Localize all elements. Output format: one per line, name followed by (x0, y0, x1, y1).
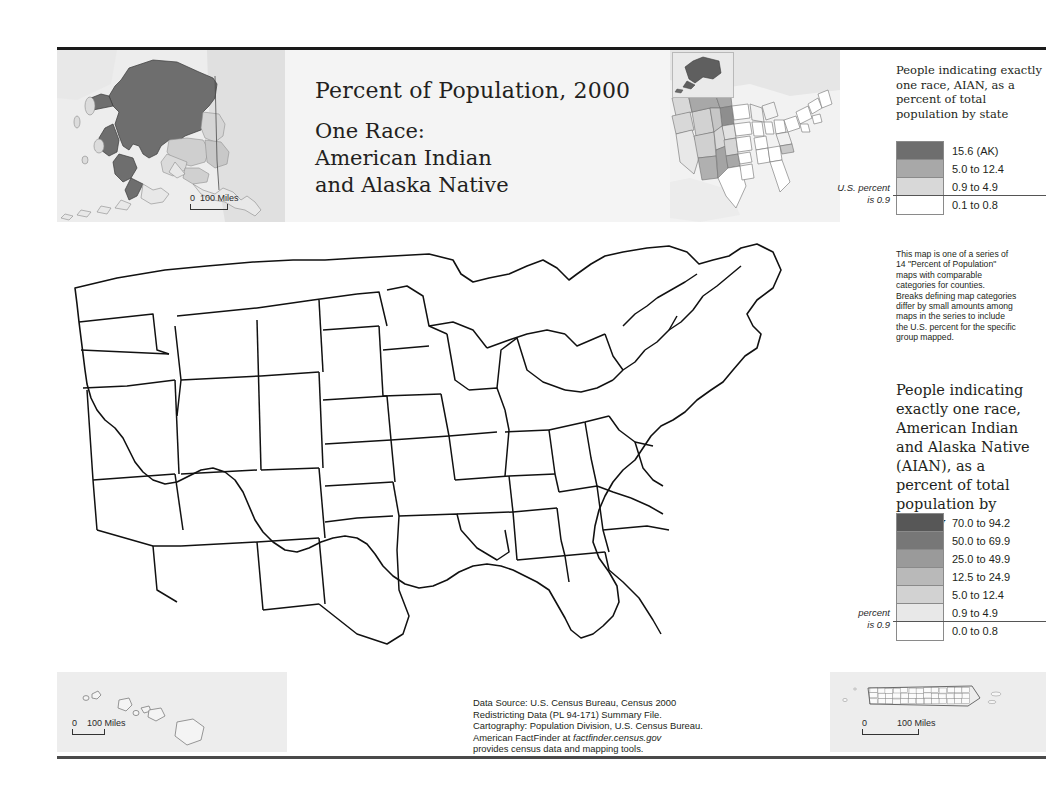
state-legend-label-3: 0.1 to 0.8 (952, 199, 998, 211)
pr-municipio-mesh (870, 688, 970, 705)
state-legend-us-percent-note: U.S. percent is 0.9 (800, 182, 890, 206)
factfinder-url: factfinder.census.gov (573, 732, 661, 743)
pr-municipio (954, 688, 962, 693)
pr-municipio (924, 693, 932, 698)
county-legend-label-4: 5.0 to 12.4 (952, 589, 1004, 601)
county-legend-swatch-3: 12.5 to 24.9 (897, 568, 943, 586)
hawaii-inset-map: 0 100 Miles (57, 672, 287, 752)
county-legend-label-6: 0.0 to 0.8 (952, 625, 998, 637)
alaska-scale-distance: 100 Miles (200, 193, 239, 203)
pr-municipio (885, 688, 893, 693)
pr-municipio (909, 693, 917, 698)
pr-municipio (909, 688, 917, 693)
state-legend-swatch-0: 15.6 (AK) (897, 142, 943, 160)
source-note-line-2: Redistricting Data (PL 94-171) Summary F… (473, 709, 743, 721)
county-legend-heading-line-4: and Alaska Native (896, 438, 1046, 457)
state-legend-swatch-3: 0.1 to 0.8 (897, 196, 943, 214)
pr-municipio (885, 699, 893, 704)
pr-municipio (885, 694, 893, 699)
source-note-line-3: Cartography: Population Division, U.S. C… (473, 720, 743, 732)
main-county-choropleth-map (57, 230, 857, 700)
source-note-line-1: Data Source: U.S. Census Bureau, Census … (473, 697, 743, 709)
hawaii-scalebar: 0 100 Miles (72, 718, 126, 735)
subtitle-line-2: American Indian (315, 145, 675, 172)
pr-municipio (931, 688, 939, 693)
alaska-thumbnail-svg (673, 53, 731, 95)
county-legend-label-1: 50.0 to 69.9 (952, 535, 1010, 547)
county-legend-heading-line-6: percent of total (896, 476, 1046, 495)
state-legend-heading: People indicating exactly one race, AIAN… (896, 63, 1042, 121)
pr-municipio (924, 688, 932, 693)
source-note-line-5: provides census data and mapping tools. (473, 743, 743, 755)
pr-municipio (947, 699, 955, 704)
pr-municipio (878, 699, 886, 704)
state-legend-swatch-1: 5.0 to 12.4 (897, 160, 943, 178)
county-legend-label-3: 12.5 to 24.9 (952, 571, 1010, 583)
puerto-rico-inset-map: 0 100 Miles (830, 672, 1046, 752)
series-note-line-1: This map is one of a series of (896, 249, 1046, 259)
series-note-line-3: maps with comparable (896, 270, 1046, 280)
pr-municipio (924, 699, 932, 704)
series-note-line-7: maps in the series to include (896, 311, 1046, 321)
series-note-line-2: 14 "Percent of Population" (896, 259, 1046, 269)
county-legend-heading-line-5: (AIAN), as a (896, 457, 1046, 476)
county-legend-swatch-6: 0.0 to 0.8 (897, 622, 943, 640)
state-legend-label-2: 0.9 to 4.9 (952, 181, 998, 193)
county-legend-heading-line-2: exactly one race, (896, 400, 1046, 419)
hawaii-inset-svg (57, 672, 287, 752)
series-note-line-6: differ by small amounts among (896, 301, 1046, 311)
subtitle-line-1: One Race: (315, 118, 675, 145)
pr-municipio (954, 699, 962, 704)
source-note-line-4-prefix: American FactFinder at (473, 732, 573, 743)
pr-municipio (878, 688, 886, 693)
pr-municipio (901, 699, 909, 704)
state-us-percent-line-1: U.S. percent (800, 182, 890, 194)
alaska-inset-svg (57, 50, 285, 222)
puerto-rico-scalebar-bar (862, 729, 919, 735)
pr-municipio (962, 698, 970, 703)
page-title: Percent of Population, 2000 (315, 78, 675, 103)
pr-municipio (916, 699, 924, 704)
pr-scale-distance: 100 Miles (897, 718, 936, 728)
alaska-scalebar: 0 100 Miles (190, 193, 239, 210)
county-legend-heading: People indicating exactly one race, Amer… (896, 381, 1046, 533)
pr-municipio (939, 694, 947, 699)
pr-municipio (878, 693, 886, 698)
pr-municipio (870, 699, 878, 704)
county-legend-label-0: 70.0 to 94.2 (952, 517, 1010, 529)
pr-municipio (870, 693, 878, 698)
pr-municipio (916, 688, 924, 693)
alaska-inset-map: 0 100 Miles (57, 50, 285, 222)
source-note-line-4: American FactFinder at factfinder.census… (473, 732, 743, 744)
pr-municipio (916, 693, 924, 698)
pr-municipio (947, 694, 955, 699)
pr-municipio (955, 694, 963, 699)
puerto-rico-inset-svg (830, 672, 1046, 752)
county-legend-label-5: 0.9 to 4.9 (952, 607, 998, 619)
subtitle-line-3: and Alaska Native (315, 172, 675, 199)
series-note-line-9: group mapped. (896, 332, 1046, 342)
pr-municipio (901, 693, 909, 698)
pr-scale-zero: 0 (862, 718, 867, 728)
pr-municipio (894, 688, 902, 693)
puerto-rico-scalebar: 0 100 Miles (862, 718, 936, 735)
alaska-scale-zero: 0 (190, 193, 195, 203)
pr-municipio (932, 699, 940, 704)
county-legend-heading-line-3: American Indian (896, 419, 1046, 438)
pr-municipio (900, 688, 908, 693)
pr-municipio (931, 693, 939, 698)
pr-municipio (939, 688, 947, 693)
census-map-poster: 0 100 Miles Percent of Population, 2000 … (0, 0, 1046, 794)
hawaii-scale-zero: 0 (72, 718, 77, 728)
alaska-scalebar-bar (190, 204, 228, 210)
series-note-line-8: the U.S. percent for the specific (896, 322, 1046, 332)
pr-municipio (962, 693, 970, 698)
state-legend-swatches: 15.6 (AK) 5.0 to 12.4 0.9 to 4.9 0.1 to … (896, 141, 944, 215)
state-legend-label-0: 15.6 (AK) (952, 145, 998, 157)
county-legend-swatch-2: 25.0 to 49.9 (897, 550, 943, 568)
state-legend-swatch-2: 0.9 to 4.9 (897, 178, 943, 196)
county-legend-swatch-5: 0.9 to 4.9 (897, 604, 943, 622)
hawaii-scale-distance: 100 Miles (87, 718, 126, 728)
series-note-line-5: Breaks defining map categories (896, 291, 1046, 301)
state-legend-label-1: 5.0 to 12.4 (952, 163, 1004, 175)
